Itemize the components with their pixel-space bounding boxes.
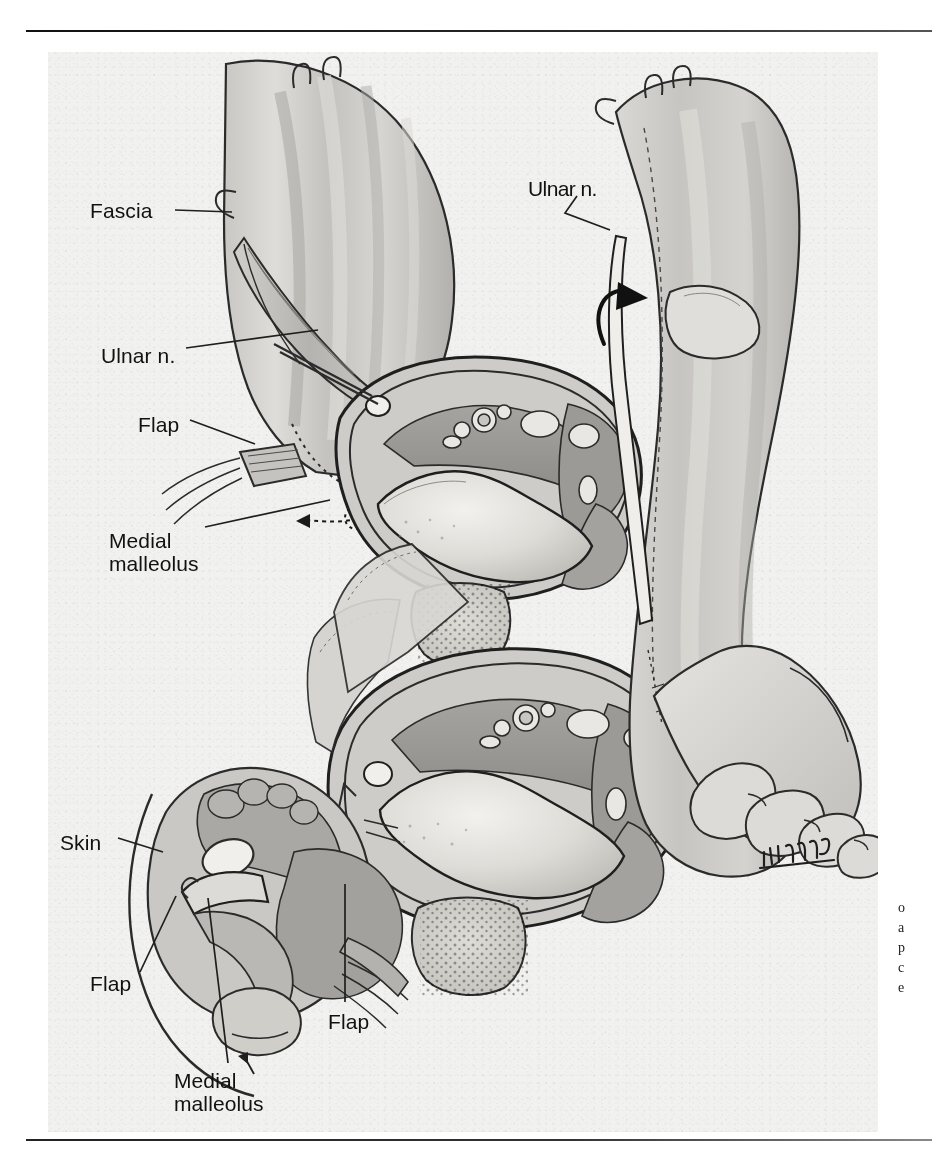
caption-line-3: p bbox=[898, 938, 932, 958]
label-medial-malleolus-lower-line2: malleolus bbox=[174, 1092, 264, 1115]
label-flap-upper-left: Flap bbox=[138, 413, 179, 436]
illustration-plate bbox=[48, 52, 878, 1132]
anatomical-artwork bbox=[48, 52, 878, 1132]
label-flap-lower-left: Flap bbox=[90, 972, 131, 995]
label-ulnar-nerve-right: Ulnar n. bbox=[528, 177, 597, 200]
label-medial-malleolus-upper-line2: malleolus bbox=[109, 552, 199, 575]
caption-line-4: c bbox=[898, 958, 932, 978]
caption-line-5: e bbox=[898, 978, 932, 998]
label-ulnar-nerve-left: Ulnar n. bbox=[101, 344, 175, 367]
caption-line-1: o bbox=[898, 898, 932, 918]
caption-line-2: a bbox=[898, 918, 932, 938]
truncated-caption: o a p c e bbox=[898, 898, 932, 1028]
label-flap-center: Flap bbox=[328, 1010, 369, 1033]
label-medial-malleolus-lower-line1: Medial bbox=[174, 1069, 236, 1092]
illustration-page: Fascia Ulnar n. Flap Medial malleolus Ul… bbox=[0, 0, 932, 1155]
label-skin: Skin bbox=[60, 831, 101, 854]
label-medial-malleolus-upper-line1: Medial bbox=[109, 529, 171, 552]
bottom-rule bbox=[26, 1139, 932, 1141]
label-fascia: Fascia bbox=[90, 199, 152, 222]
top-rule bbox=[26, 30, 932, 32]
